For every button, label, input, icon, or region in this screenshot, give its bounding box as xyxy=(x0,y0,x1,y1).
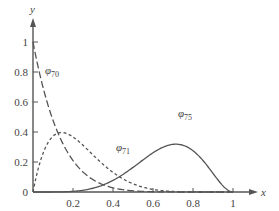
series-70-line xyxy=(33,42,233,192)
x-tick-label: 1 xyxy=(230,197,236,209)
x-tick-label: 0.2 xyxy=(66,197,80,209)
x-axis-label: x xyxy=(260,186,266,198)
y-axis-arrow-icon xyxy=(30,18,36,27)
y-tick-label: 0 xyxy=(23,186,29,198)
series-labels: φ70φ71φ75 xyxy=(45,64,192,156)
series-71-line xyxy=(33,133,233,192)
series-label-71: φ71 xyxy=(116,141,130,156)
y-tick-label: 0.6 xyxy=(14,96,28,108)
y-tick-label: 1 xyxy=(23,36,29,48)
y-tick-label: 0.2 xyxy=(14,156,28,168)
series-label-70: φ70 xyxy=(45,64,59,79)
y-axis-label: y xyxy=(29,3,35,15)
axes: xy0.20.40.60.8100.20.40.60.81 xyxy=(14,3,266,209)
y-tick-label: 0.4 xyxy=(14,126,28,138)
x-tick-label: 0.6 xyxy=(146,197,160,209)
x-tick-label: 0.8 xyxy=(186,197,200,209)
curves xyxy=(33,42,233,192)
series-75-line xyxy=(33,144,233,192)
y-tick-label: 0.8 xyxy=(14,66,28,78)
series-label-75: φ75 xyxy=(178,107,192,122)
x-axis-arrow-icon xyxy=(249,189,258,195)
x-tick-label: 0.4 xyxy=(106,197,120,209)
chart: xy0.20.40.60.8100.20.40.60.81 φ70φ71φ75 xyxy=(0,0,279,211)
